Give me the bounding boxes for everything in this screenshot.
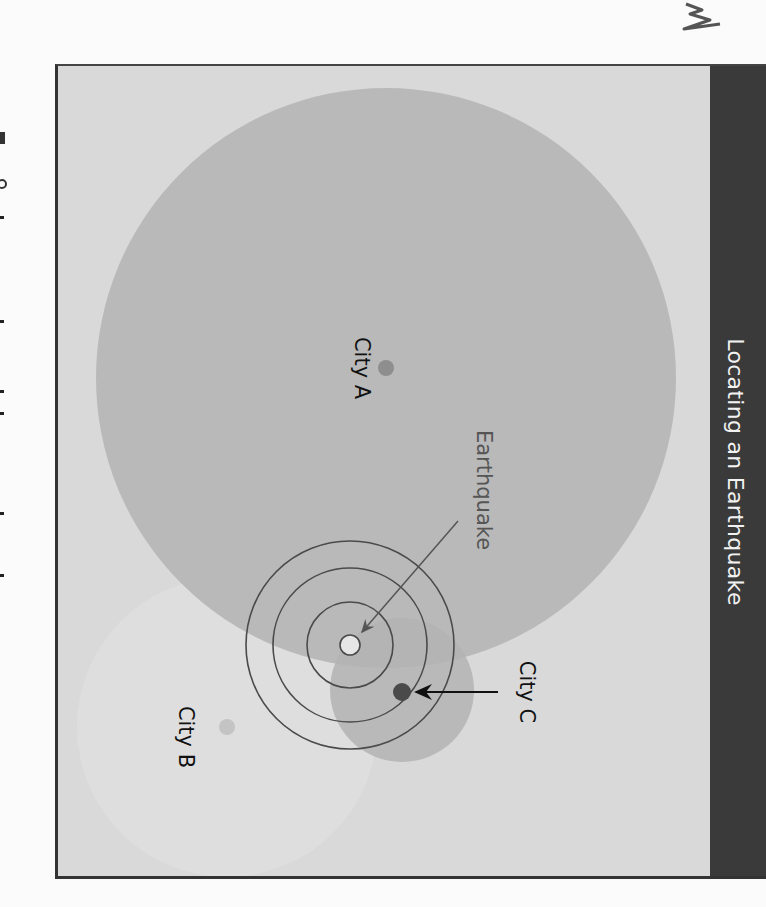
city-c-dot bbox=[393, 683, 411, 701]
city-a-label: City A bbox=[350, 337, 374, 399]
figure-title: Locating an Earthquake bbox=[723, 338, 748, 605]
city-a-dot bbox=[378, 360, 394, 376]
earthquake-diagram bbox=[0, 0, 766, 907]
earthquake-label: Earthquake bbox=[472, 430, 496, 550]
city-a-range-circle bbox=[96, 88, 676, 668]
city-b-dot bbox=[219, 719, 235, 735]
city-b-label: City B bbox=[174, 706, 198, 768]
city-c-label: City C bbox=[515, 661, 539, 724]
